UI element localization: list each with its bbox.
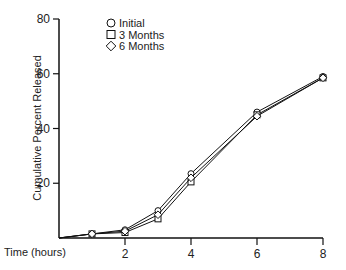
series-6-months (59, 74, 327, 238)
circle-marker (107, 19, 115, 27)
legend-label: 3 Months (119, 29, 165, 41)
x-tick-label: 4 (188, 247, 195, 261)
x-tick-label: 6 (254, 247, 261, 261)
square-marker (107, 31, 115, 39)
y-axis-title: Cumulative Percent Released (31, 55, 43, 201)
axes: 204060802468 (37, 12, 327, 261)
line-chart: 204060802468 Initial3 Months6 Months Tim… (0, 0, 346, 270)
diamond-marker (106, 41, 116, 51)
x-tick-label: 2 (122, 247, 129, 261)
x-tick-label: 8 (320, 247, 327, 261)
legend: Initial3 Months6 Months (106, 17, 165, 52)
series-line (59, 78, 323, 238)
legend-label: Initial (119, 17, 145, 29)
legend-label: 6 Months (119, 40, 165, 52)
series-group (59, 73, 327, 238)
y-tick-label: 80 (37, 12, 51, 26)
x-axis-title: Time (hours) (4, 246, 66, 258)
series-line (59, 78, 323, 238)
